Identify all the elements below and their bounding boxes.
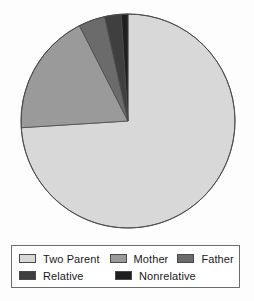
legend-row: Two Parent Mother Father (19, 250, 234, 267)
legend-row: Relative Nonrelative (19, 267, 234, 284)
chart-legend: Two Parent Mother Father Relative Nonrel… (11, 245, 240, 288)
legend-swatch-nonrelative (115, 271, 132, 280)
pie-slice-group (21, 14, 235, 228)
legend-label-nonrelative: Nonrelative (139, 270, 196, 282)
legend-swatch-mother (110, 254, 127, 263)
legend-label-two-parent: Two Parent (43, 253, 100, 265)
pie-chart-figure: Two Parent Mother Father Relative Nonrel… (0, 0, 254, 301)
pie-plot-area (0, 0, 254, 238)
legend-item-mother[interactable]: Mother (110, 253, 178, 265)
legend-label-father: Father (201, 253, 233, 265)
legend-item-relative[interactable]: Relative (19, 270, 115, 282)
legend-label-relative: Relative (43, 270, 84, 282)
legend-label-mother: Mother (134, 253, 169, 265)
legend-swatch-father (177, 254, 194, 263)
pie-svg (0, 0, 254, 238)
legend-swatch-relative (19, 271, 36, 280)
legend-item-father[interactable]: Father (177, 253, 234, 265)
legend-item-nonrelative[interactable]: Nonrelative (115, 270, 187, 282)
legend-swatch-two-parent (19, 254, 36, 263)
legend-item-two-parent[interactable]: Two Parent (19, 253, 110, 265)
